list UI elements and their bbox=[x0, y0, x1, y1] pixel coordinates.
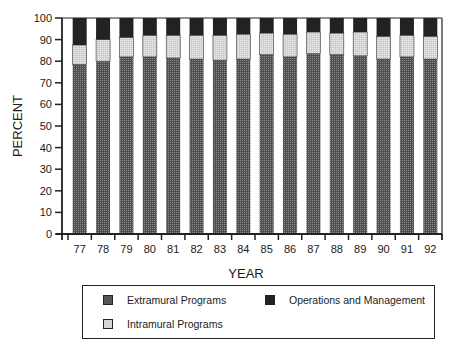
bar-segment-operations bbox=[73, 18, 87, 45]
bar-segment-intramural bbox=[377, 36, 391, 59]
bar-segment-intramural bbox=[400, 35, 414, 57]
legend-item-operations: Operations and Management bbox=[265, 294, 425, 306]
bar-segment-operations bbox=[260, 18, 274, 33]
legend: Extramural Programs Operations and Manag… bbox=[82, 285, 435, 339]
x-tick-label: 81 bbox=[167, 243, 179, 255]
bar-segment-intramural bbox=[96, 40, 110, 62]
bar-segment-extramural bbox=[96, 61, 110, 234]
bar-segment-intramural bbox=[353, 32, 367, 56]
bar-segment-intramural bbox=[423, 36, 437, 59]
intramural-swatch-icon bbox=[103, 319, 113, 329]
bar-segment-intramural bbox=[236, 34, 250, 59]
bar-segment-extramural bbox=[119, 57, 133, 234]
bar-segment-operations bbox=[166, 18, 180, 35]
y-tick-label: 100 bbox=[34, 12, 52, 24]
bar-segment-operations bbox=[330, 18, 344, 33]
x-tick-label: 85 bbox=[261, 243, 273, 255]
y-tick-label: 70 bbox=[40, 77, 52, 89]
bar-segment-intramural bbox=[119, 37, 133, 56]
bars-group bbox=[73, 18, 438, 234]
bar-segment-intramural bbox=[283, 34, 297, 57]
bar-segment-operations bbox=[423, 18, 437, 36]
bar-segment-extramural bbox=[213, 60, 227, 234]
bar-segment-extramural bbox=[260, 55, 274, 234]
bar-segment-intramural bbox=[190, 35, 204, 59]
bar-segment-operations bbox=[213, 18, 227, 35]
y-axis-title: PERCENT bbox=[10, 95, 25, 157]
bar-segment-intramural bbox=[306, 32, 320, 54]
bar-segment-intramural bbox=[143, 35, 157, 57]
legend-item-extramural: Extramural Programs bbox=[103, 294, 226, 306]
legend-item-intramural: Intramural Programs bbox=[103, 318, 223, 330]
x-tick-label: 91 bbox=[401, 243, 413, 255]
y-tick-label: 60 bbox=[40, 98, 52, 110]
legend-label-operations: Operations and Management bbox=[289, 294, 425, 306]
bar-segment-operations bbox=[306, 18, 320, 32]
legend-label-extramural: Extramural Programs bbox=[127, 294, 226, 306]
bar-segment-operations bbox=[283, 18, 297, 34]
x-tick-label: 82 bbox=[190, 243, 202, 255]
bar-segment-operations bbox=[190, 18, 204, 35]
bar-segment-extramural bbox=[400, 57, 414, 234]
y-tick-label: 20 bbox=[40, 185, 52, 197]
bar-segment-extramural bbox=[306, 54, 320, 234]
x-tick-label: 89 bbox=[354, 243, 366, 255]
x-tick-label: 88 bbox=[331, 243, 343, 255]
y-tick-label: 0 bbox=[46, 228, 52, 240]
x-tick-label: 83 bbox=[214, 243, 226, 255]
x-tick-label: 92 bbox=[424, 243, 436, 255]
y-tick-label: 30 bbox=[40, 163, 52, 175]
bar-segment-extramural bbox=[283, 57, 297, 234]
legend-label-intramural: Intramural Programs bbox=[127, 318, 223, 330]
x-tick-label: 87 bbox=[307, 243, 319, 255]
x-axis-title: YEAR bbox=[228, 266, 263, 281]
bar-segment-extramural bbox=[166, 58, 180, 234]
x-tick-label: 90 bbox=[377, 243, 389, 255]
bar-segment-operations bbox=[119, 18, 133, 37]
bar-segment-extramural bbox=[190, 59, 204, 234]
x-tick-label: 84 bbox=[237, 243, 249, 255]
bar-segment-extramural bbox=[353, 56, 367, 234]
bar-segment-extramural bbox=[423, 59, 437, 234]
bar-segment-operations bbox=[96, 18, 110, 40]
bar-segment-extramural bbox=[143, 57, 157, 234]
y-tick-label: 10 bbox=[40, 206, 52, 218]
bar-segment-extramural bbox=[73, 64, 87, 234]
x-tick-label: 79 bbox=[120, 243, 132, 255]
y-tick-label: 90 bbox=[40, 34, 52, 46]
y-tick-label: 40 bbox=[40, 142, 52, 154]
y-tick-label: 50 bbox=[40, 120, 52, 132]
bar-segment-operations bbox=[377, 18, 391, 36]
bar-segment-operations bbox=[400, 18, 414, 35]
stacked-bar-chart: 7778798081828384858687888990919201020304… bbox=[0, 0, 453, 285]
bar-segment-intramural bbox=[166, 35, 180, 58]
bar-segment-intramural bbox=[330, 33, 344, 55]
x-tick-label: 86 bbox=[284, 243, 296, 255]
bar-segment-extramural bbox=[236, 59, 250, 234]
bar-segment-intramural bbox=[73, 45, 87, 64]
bar-segment-operations bbox=[353, 18, 367, 32]
x-tick-label: 80 bbox=[144, 243, 156, 255]
bar-segment-operations bbox=[236, 18, 250, 34]
x-tick-label: 77 bbox=[74, 243, 86, 255]
operations-swatch-icon bbox=[265, 295, 275, 305]
bar-segment-intramural bbox=[213, 35, 227, 60]
bar-segment-intramural bbox=[260, 33, 274, 55]
bar-segment-extramural bbox=[330, 55, 344, 234]
x-tick-label: 78 bbox=[97, 243, 109, 255]
bar-segment-operations bbox=[143, 18, 157, 35]
bar-segment-extramural bbox=[377, 59, 391, 234]
extramural-swatch-icon bbox=[103, 295, 113, 305]
y-tick-label: 80 bbox=[40, 55, 52, 67]
